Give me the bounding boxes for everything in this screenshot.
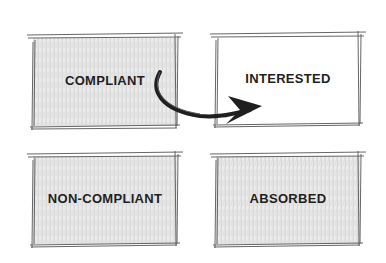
box-non-compliant: Non-compliant [25,148,185,248]
box-label-non-compliant: Non-compliant [25,191,185,206]
box-compliant: Compliant [25,30,185,130]
box-label-absorbed: Absorbed [208,191,368,206]
box-label-compliant: Compliant [25,73,185,88]
box-label-interested: Interested [208,71,368,86]
box-absorbed: Absorbed [208,148,368,248]
box-interested: Interested [208,28,368,128]
